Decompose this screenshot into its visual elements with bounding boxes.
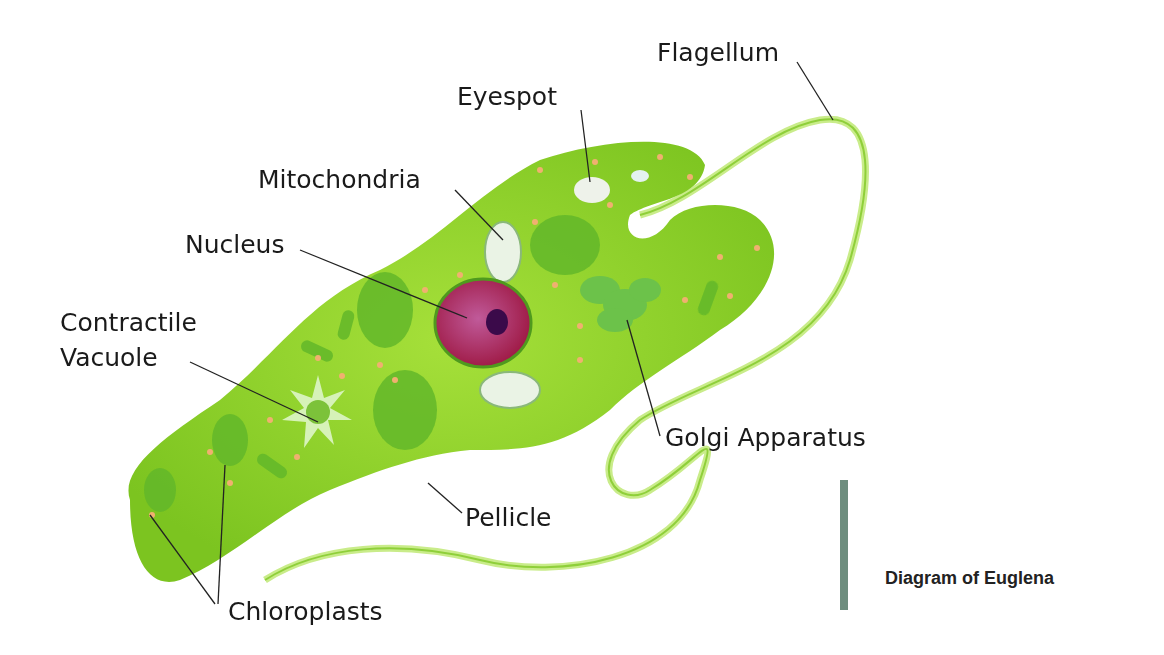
nucleus [435, 279, 531, 367]
eyespot [574, 177, 610, 203]
caption-bar [840, 480, 848, 610]
label-flagellum: Flagellum [657, 38, 779, 68]
label-chloroplasts: Chloroplasts [228, 597, 383, 627]
label-nucleus: Nucleus [185, 230, 285, 260]
nucleolus [486, 309, 508, 335]
mitochondrion [480, 372, 540, 408]
label-vacuole: Vacuole [60, 343, 158, 373]
label-golgi-apparatus: Golgi Apparatus [665, 423, 866, 453]
mitochondrion [485, 222, 521, 282]
label-pellicle: Pellicle [465, 503, 551, 533]
diagram-caption: Diagram of Euglena [885, 568, 1054, 589]
label-eyespot: Eyespot [457, 82, 557, 112]
label-contractile: Contractile [60, 308, 197, 338]
label-mitochondria: Mitochondria [258, 165, 421, 195]
